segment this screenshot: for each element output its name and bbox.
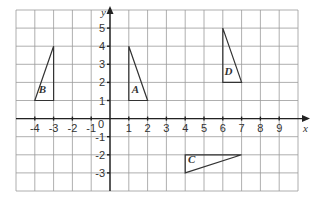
y-tick-label: 1 [99, 95, 105, 107]
y-tick-label: 2 [99, 76, 105, 88]
y-tick-label: -1 [95, 131, 105, 143]
origin-label: 0 [98, 118, 104, 130]
y-tick-label: -3 [95, 167, 105, 179]
y-axis-label: y [100, 6, 106, 18]
triangle-label-d: D [223, 65, 232, 77]
y-tick-label: 3 [99, 58, 105, 70]
x-tick-label: 4 [182, 122, 188, 134]
coordinate-grid-diagram: -4-3-2-112345678954321-1-2-30xyABCD [0, 0, 312, 206]
y-tick-label: 4 [99, 40, 105, 52]
x-tick-label: 7 [239, 122, 245, 134]
x-tick-label: 5 [201, 122, 207, 134]
x-tick-label: 3 [163, 122, 169, 134]
grid-lines [16, 10, 298, 191]
x-tick-label: -4 [30, 122, 40, 134]
x-tick-label: -3 [49, 122, 59, 134]
grid-plot: -4-3-2-112345678954321-1-2-30xyABCD [0, 0, 312, 206]
x-tick-label: 2 [145, 122, 151, 134]
y-tick-label: 5 [99, 22, 105, 34]
y-tick-label: -2 [95, 149, 105, 161]
x-tick-label: 8 [257, 122, 263, 134]
triangle-label-c: C [188, 153, 196, 165]
triangle-label-b: B [38, 83, 46, 95]
x-tick-label: -2 [68, 122, 78, 134]
x-tick-label: 1 [126, 122, 132, 134]
triangle-label-a: A [131, 83, 139, 95]
x-axis-label: x [302, 122, 308, 134]
x-tick-label: 6 [220, 122, 226, 134]
x-tick-label: 9 [276, 122, 282, 134]
